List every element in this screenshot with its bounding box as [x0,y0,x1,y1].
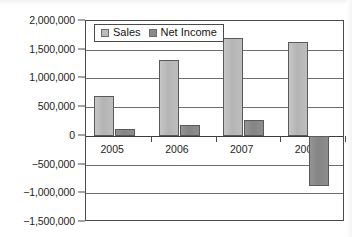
bar-chart-figure: 2,000,0001,500,0001,000,000500,0000−500,… [0,0,352,237]
y-tick-label: 2,000,000 [29,14,75,26]
bar-sales-2005 [94,96,114,136]
y-axis: 2,000,0001,500,0001,000,000500,0000−500,… [0,20,85,221]
bar-sales-2008 [288,42,308,136]
legend-swatch-sales-icon [101,29,109,37]
x-tick-mark [216,136,217,142]
zero-gridline [86,136,343,137]
bar-sales-2007 [223,38,243,136]
bar-net-income-2008 [309,136,329,187]
scan-artifact-top [0,0,352,5]
y-tick-mark [78,20,85,21]
y-tick-mark [78,163,85,164]
y-tick-mark [78,221,85,222]
bar-net-income-2006 [180,125,200,136]
legend-entry-net-income: Net Income [149,27,217,38]
gridline [86,193,343,194]
y-tick-mark [78,77,85,78]
gridline [86,165,343,166]
scan-artifact-right [347,0,352,237]
y-tick-label: 0 [69,129,75,141]
y-tick-label: −1,000,000 [23,186,75,198]
legend-entry-sales: Sales [101,27,141,38]
y-tick-mark [78,134,85,135]
y-tick-label: −1,500,000 [23,215,75,227]
bar-net-income-2005 [115,129,135,136]
bar-sales-2006 [159,60,179,136]
legend-label-sales: Sales [113,27,141,38]
y-tick-label: −500,000 [32,158,75,170]
y-tick-mark [78,48,85,49]
legend-label-net-income: Net Income [161,27,217,38]
y-tick-label: 500,000 [38,100,75,112]
x-tick-label-2005: 2005 [101,143,124,155]
chart-legend: Sales Net Income [94,24,224,42]
y-tick-mark [78,106,85,107]
x-tick-mark [151,136,152,142]
y-tick-label: 1,500,000 [29,43,75,55]
x-tick-label-2006: 2006 [165,143,188,155]
bar-net-income-2007 [244,120,264,136]
x-tick-mark [345,136,346,142]
x-tick-mark [280,136,281,142]
x-tick-label-2007: 2007 [230,143,253,155]
legend-swatch-net-income-icon [149,29,157,37]
plot-area [85,20,344,221]
y-tick-mark [78,192,85,193]
y-tick-label: 1,000,000 [29,71,75,83]
